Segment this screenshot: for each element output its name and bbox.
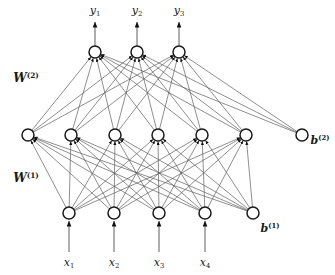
output-node-3 — [173, 46, 185, 58]
connection-edge — [69, 142, 71, 208]
hidden-node-6 — [240, 129, 252, 141]
bias-node-2 — [296, 129, 308, 141]
connection-edge — [158, 142, 159, 208]
connection-edge — [101, 54, 296, 132]
weight-label-W2: W(2) — [13, 72, 39, 84]
hidden-node-1 — [22, 129, 34, 141]
connection-edge — [184, 56, 297, 132]
input-label-x2: x2 — [109, 257, 120, 270]
bias-node-1 — [247, 207, 259, 219]
hidden-node-5 — [196, 129, 208, 141]
connection-edge — [118, 141, 156, 208]
connection-edge — [159, 58, 177, 129]
input-node-4 — [199, 207, 211, 219]
connection-edge — [117, 141, 155, 208]
input-node-3 — [153, 207, 165, 219]
figure-canvas: W(2) W(1) b(2) b(1) y1 y2 y3 x1 x2 x3 x4 — [0, 0, 335, 275]
connection-edge — [206, 140, 250, 208]
connection-edge — [77, 138, 248, 211]
output-label-y2: y2 — [132, 5, 143, 18]
input-node-2 — [108, 207, 120, 219]
connection-edge — [99, 57, 154, 130]
weight-label-W1: W(1) — [13, 172, 39, 184]
connection-edge — [97, 58, 114, 129]
connection-edge — [118, 139, 197, 209]
hidden-node-4 — [152, 129, 164, 141]
connection-edge — [181, 58, 201, 129]
hidden-node-3 — [109, 129, 121, 141]
edges-input-to-hidden — [31, 137, 252, 211]
input-label-x4: x4 — [200, 257, 211, 270]
bias-label-b2: b(2) — [311, 135, 330, 146]
output-node-2 — [131, 46, 143, 58]
connection-edge — [76, 139, 155, 209]
connection-edge — [119, 57, 175, 130]
connection-edge — [73, 58, 94, 129]
network-graph — [0, 0, 335, 275]
connection-edge — [247, 141, 253, 207]
edges-hidden-to-output — [32, 54, 297, 132]
connection-edge — [33, 55, 173, 132]
connection-edge — [120, 139, 201, 209]
input-label-x1: x1 — [64, 257, 75, 270]
output-label-y1: y1 — [90, 5, 101, 18]
connection-edge — [163, 139, 248, 209]
bias-label-b1: b(1) — [261, 223, 280, 234]
nodes-group — [22, 46, 308, 219]
input-node-1 — [63, 207, 75, 219]
hidden-node-2 — [65, 129, 77, 141]
output-node-1 — [89, 46, 101, 58]
connection-edge — [121, 138, 248, 210]
input-label-x3: x3 — [154, 257, 165, 270]
output-label-y3: y3 — [174, 5, 185, 18]
